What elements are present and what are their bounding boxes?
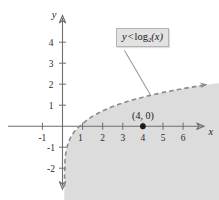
graph-labels-layer: -1 1 2 3 4 5 6 4 3 2 1 -1 -2 y x (4, 0) <box>0 0 219 200</box>
graph-figure: -1 1 2 3 4 5 6 4 3 2 1 -1 -2 y x (4, 0) … <box>0 0 219 200</box>
callout-function: log <box>135 31 148 42</box>
point-label-4-0: (4, 0) <box>132 110 154 122</box>
callout-operator: < <box>127 31 135 42</box>
y-tick-label-4: 4 <box>49 38 54 48</box>
x-tick-label-6: 6 <box>181 133 186 143</box>
x-tick-label--1: -1 <box>38 133 46 143</box>
callout-base: 2 <box>148 36 151 43</box>
x-axis-label: x <box>208 126 214 137</box>
y-axis-label: y <box>51 9 57 20</box>
x-tick-label-1: 1 <box>78 133 83 143</box>
callout-argument: (x) <box>151 31 163 42</box>
y-tick-label-1: 1 <box>49 101 54 111</box>
callout-lhs: y <box>122 31 127 42</box>
x-tick-label-2: 2 <box>100 133 105 143</box>
y-tick-label--2: -2 <box>47 164 55 174</box>
y-tick-label-2: 2 <box>49 80 54 90</box>
inequality-callout-box: y<log2(x) <box>116 28 169 47</box>
x-tick-label-4: 4 <box>141 133 146 143</box>
x-tick-label-5: 5 <box>161 133 166 143</box>
y-tick-label--1: -1 <box>47 143 55 153</box>
y-tick-label-3: 3 <box>49 59 54 69</box>
x-tick-label-3: 3 <box>120 133 125 143</box>
